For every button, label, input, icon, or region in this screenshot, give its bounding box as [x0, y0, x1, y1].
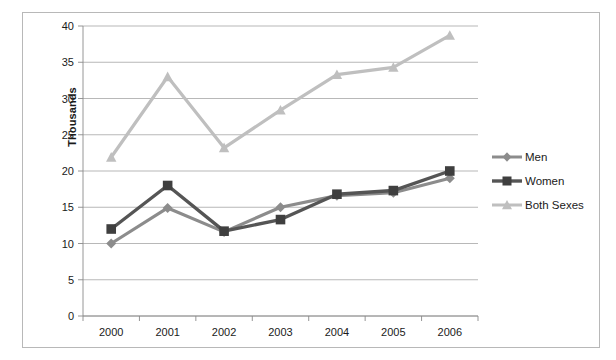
- data-point-marker: [162, 72, 172, 82]
- data-point-marker: [445, 30, 455, 40]
- x-axis-tick-label: 2005: [381, 326, 405, 338]
- data-point-marker: [276, 215, 286, 225]
- data-point-marker: [445, 166, 455, 176]
- x-axis-tick-label: 2000: [99, 326, 123, 338]
- data-point-marker: [163, 181, 173, 191]
- y-axis-tick-label: 35: [62, 56, 74, 68]
- x-axis-tick-label: 2006: [438, 326, 462, 338]
- legend-swatch-both-sexes: [491, 197, 523, 213]
- data-point-marker: [276, 202, 286, 212]
- data-point-marker: [332, 189, 342, 199]
- y-axis-tick-label: 25: [62, 129, 74, 141]
- legend-item-men: Men: [491, 145, 599, 169]
- legend-swatch-women: [491, 173, 523, 189]
- legend-label-men: Men: [525, 151, 547, 163]
- legend-label-women: Women: [525, 175, 564, 187]
- data-point-marker: [219, 226, 229, 236]
- chart-frame: Thousands 051015202530354020002001200220…: [22, 12, 600, 348]
- y-axis-tick-label: 5: [68, 274, 74, 286]
- data-point-marker: [389, 186, 399, 196]
- x-axis-tick-label: 2004: [325, 326, 349, 338]
- series-men: [106, 173, 455, 248]
- y-axis-tick-label: 20: [62, 165, 74, 177]
- y-axis-tick-label: 40: [62, 20, 74, 32]
- y-axis-tick-label: 15: [62, 201, 74, 213]
- x-axis-tick-label: 2001: [155, 326, 179, 338]
- series-both-sexes: [106, 30, 455, 161]
- data-point-marker: [106, 224, 116, 234]
- series-women: [106, 166, 454, 236]
- x-axis-tick-label: 2003: [268, 326, 292, 338]
- y-axis-tick-label: 0: [68, 310, 74, 322]
- legend-item-women: Women: [491, 169, 599, 193]
- x-axis-tick-label: 2002: [212, 326, 236, 338]
- y-axis-tick-label: 10: [62, 238, 74, 250]
- legend-item-both-sexes: Both Sexes: [491, 193, 599, 217]
- y-axis-tick-label: 30: [62, 93, 74, 105]
- chart-legend: Men Women Both Sexes: [491, 145, 599, 217]
- legend-swatch-men: [491, 149, 523, 165]
- legend-label-both-sexes: Both Sexes: [525, 199, 584, 211]
